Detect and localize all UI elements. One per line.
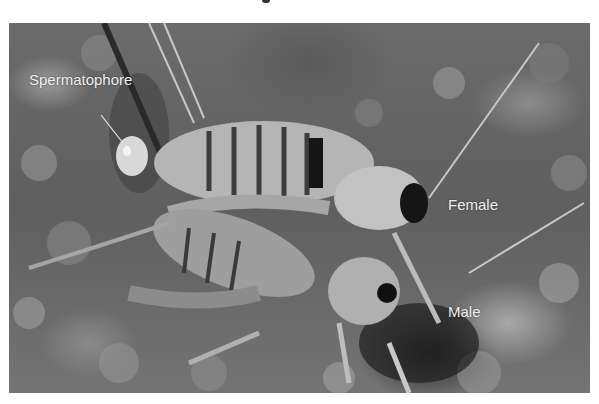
page-mark (262, 0, 270, 3)
insect-photo: Spermatophore Female Male (9, 23, 590, 393)
spermatophore (116, 136, 148, 176)
spermatophore-label: Spermatophore (29, 71, 132, 88)
moss-texture (13, 35, 587, 393)
female-label: Female (448, 196, 498, 213)
male-label: Male (448, 303, 481, 320)
